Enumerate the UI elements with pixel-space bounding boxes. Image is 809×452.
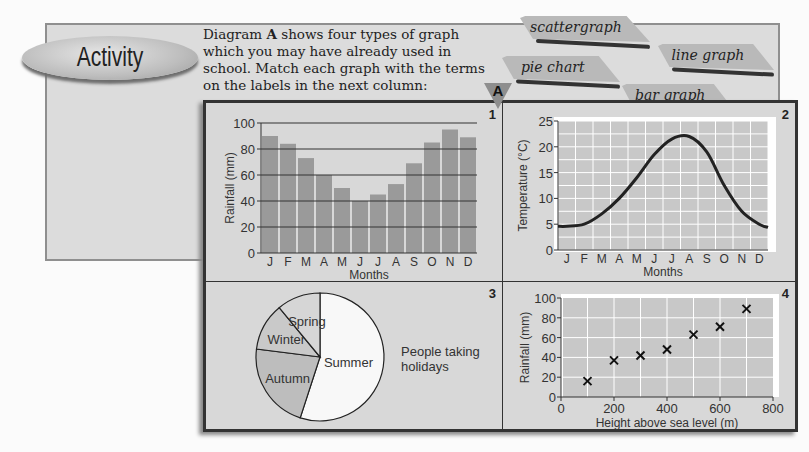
svg-text:Height above sea level (m): Height above sea level (m) [596,416,739,429]
svg-text:holidays: holidays [401,359,449,374]
svg-text:D: D [464,255,473,269]
svg-text:F: F [284,255,291,269]
svg-text:M: M [337,255,347,269]
activity-label: Activity [41,42,178,73]
svg-text:10: 10 [539,191,553,206]
panel-number: 1 [489,107,496,122]
svg-text:0: 0 [248,246,255,261]
svg-text:5: 5 [546,217,553,232]
panel-line-graph: 2 0510152025JFMAMJJASONDMonthsTemperatur… [502,102,796,282]
svg-text:Months: Months [643,265,682,279]
svg-text:A: A [392,255,400,269]
svg-text:D: D [755,252,764,266]
svg-text:A: A [685,252,693,266]
svg-text:0: 0 [557,401,564,416]
svg-text:Rainfall (mm): Rainfall (mm) [223,152,237,223]
svg-text:100: 100 [534,291,556,306]
svg-text:0: 0 [546,243,553,258]
svg-text:Summer: Summer [324,355,374,370]
svg-text:M: M [301,255,311,269]
svg-text:100: 100 [233,116,255,131]
svg-text:Temperature (°C): Temperature (°C) [516,139,530,231]
svg-text:People taking: People taking [401,344,480,359]
svg-text:400: 400 [656,401,678,416]
svg-text:800: 800 [762,401,784,416]
panel-bar-graph: 1 020406080100JFMAMJJASONDMonthsRainfall… [205,102,503,282]
svg-text:20: 20 [542,370,556,385]
svg-text:J: J [669,252,675,266]
svg-text:O: O [720,252,729,266]
svg-text:A: A [615,252,623,266]
svg-text:600: 600 [709,401,731,416]
svg-text:N: N [446,255,455,269]
diagram-a: 1 020406080100JFMAMJJASONDMonthsRainfall… [203,100,798,432]
svg-text:Autumn: Autumn [265,371,310,386]
svg-text:Months: Months [349,268,388,281]
svg-text:25: 25 [539,114,553,129]
svg-text:J: J [375,255,381,269]
bar-chart: 020406080100JFMAMJJASONDMonthsRainfall (… [206,103,502,281]
svg-text:S: S [703,252,711,266]
svg-text:J: J [564,252,570,266]
svg-text:J: J [267,255,273,269]
tag-scattergraph[interactable]: scattergraph [520,16,650,42]
activity-badge: Activity [22,36,198,80]
intro-text: Diagram A shows four types of graph whic… [203,26,493,94]
panel-scattergraph: 4 0204060801000200400600800Height above … [502,281,796,430]
svg-text:J: J [357,255,363,269]
scatter-chart: 0204060801000200400600800Height above se… [503,282,795,429]
svg-text:J: J [651,252,657,266]
svg-text:0: 0 [549,390,556,405]
svg-text:60: 60 [241,168,255,183]
svg-text:Rainfall (mm): Rainfall (mm) [518,312,532,383]
line-chart: 0510152025JFMAMJJASONDMonthsTemperature … [503,103,795,281]
svg-text:80: 80 [241,142,255,157]
svg-text:200: 200 [603,401,625,416]
svg-text:O: O [427,255,436,269]
panel-pie-chart: 3 SummerAutumnWinterSpringPeople takingh… [205,281,503,430]
svg-text:20: 20 [539,140,553,155]
tag-pie-chart[interactable]: pie chart [502,56,620,82]
svg-text:40: 40 [241,194,255,209]
panel-number: 2 [782,107,789,122]
svg-text:80: 80 [542,311,556,326]
svg-text:M: M [597,252,607,266]
svg-text:N: N [737,252,746,266]
panel-number: 3 [489,286,496,301]
svg-text:40: 40 [542,350,556,365]
pie-chart: SummerAutumnWinterSpringPeople takinghol… [206,282,502,429]
panel-number: 4 [782,286,789,301]
svg-text:60: 60 [542,331,556,346]
tag-line-graph[interactable]: line graph [658,44,774,70]
svg-text:M: M [632,252,642,266]
svg-text:Spring: Spring [288,314,326,329]
svg-text:15: 15 [539,166,553,181]
svg-text:S: S [410,255,418,269]
svg-text:20: 20 [241,220,255,235]
svg-text:A: A [320,255,328,269]
svg-text:F: F [581,252,588,266]
